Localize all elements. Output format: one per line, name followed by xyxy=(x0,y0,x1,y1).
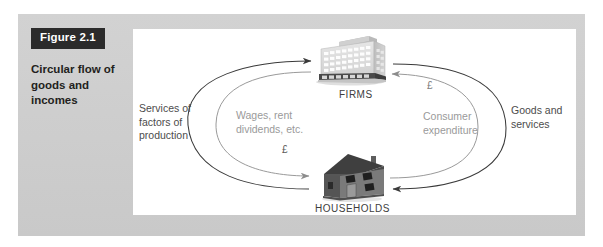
figure-root: Figure 2.1 Circular flow of goods and in… xyxy=(0,0,603,247)
flow-label-services-of-factors: Services of factors of production xyxy=(139,102,191,143)
money-symbol-left: £ xyxy=(282,143,288,157)
node-label-households: HOUSEHOLDS xyxy=(315,202,390,216)
flow-label-consumer-expenditure: Consumer expenditure xyxy=(423,110,478,137)
figure-caption: Circular flow of goods and incomes xyxy=(31,62,127,109)
figure-number-badge: Figure 2.1 xyxy=(31,28,105,49)
flow-label-wages-rent-dividends: Wages, rent dividends, etc. xyxy=(236,109,303,136)
flow-label-goods-and-services: Goods and services xyxy=(511,104,562,131)
money-symbol-right: £ xyxy=(427,79,433,93)
node-label-firms: FIRMS xyxy=(339,88,373,102)
diagram-canvas xyxy=(133,29,576,215)
